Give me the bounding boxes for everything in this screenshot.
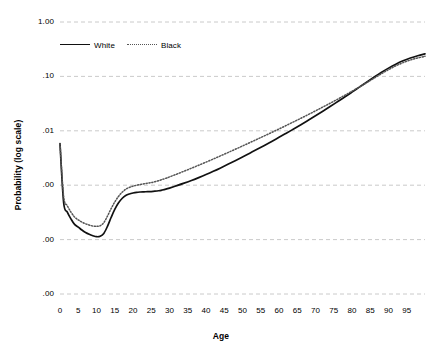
x-axis-tick-label: 40 <box>196 306 216 315</box>
x-axis-tick-label: 70 <box>306 306 326 315</box>
x-axis-tick-label: 85 <box>360 306 380 315</box>
y-axis-tick-label: 1.00 <box>20 17 54 26</box>
y-axis-tick-label: .00 <box>20 180 54 189</box>
y-axis-tick-label: .00 <box>20 235 54 244</box>
x-axis-tick-label: 75 <box>324 306 344 315</box>
x-axis-tick-label: 45 <box>214 306 234 315</box>
x-axis-tick-label: 10 <box>87 306 107 315</box>
plot-area <box>0 0 442 356</box>
y-axis-tick-label: .01 <box>20 126 54 135</box>
x-axis-tick-label: 25 <box>141 306 161 315</box>
x-axis-tick-label: 60 <box>269 306 289 315</box>
x-axis-tick-label: 50 <box>233 306 253 315</box>
x-axis-tick-label: 80 <box>342 306 362 315</box>
x-axis-tick-label: 65 <box>287 306 307 315</box>
y-axis-tick-label: .00 <box>20 289 54 298</box>
gridlines <box>60 22 425 294</box>
x-axis-tick-label: 95 <box>397 306 417 315</box>
x-axis-tick-label: 0 <box>50 306 70 315</box>
series-lines <box>60 54 425 237</box>
series-line-black <box>60 56 425 226</box>
x-axis-tick-label: 35 <box>178 306 198 315</box>
mortality-probability-chart: Probability (log scale) Age White Black … <box>0 0 442 356</box>
x-axis-tick-label: 20 <box>123 306 143 315</box>
x-axis-tick-label: 30 <box>160 306 180 315</box>
x-axis-tick-label: 15 <box>105 306 125 315</box>
x-axis-tick-label: 90 <box>379 306 399 315</box>
x-axis-tick-label: 55 <box>251 306 271 315</box>
y-axis-tick-label: .10 <box>20 71 54 80</box>
x-axis-tick-label: 5 <box>68 306 88 315</box>
